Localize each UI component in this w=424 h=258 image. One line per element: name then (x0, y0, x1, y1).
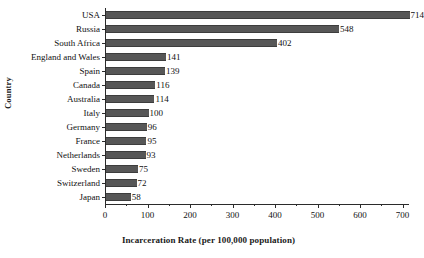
category-label: Switzerland (0, 177, 100, 189)
y-axis-tick (102, 43, 105, 44)
bar-row: Canada116 (105, 78, 409, 92)
x-axis-tick (233, 204, 234, 208)
bar-row: USA714 (105, 8, 409, 22)
bar-value-label: 93 (147, 149, 156, 161)
bar-row: Japan58 (105, 190, 409, 204)
bar (106, 11, 410, 19)
bar-row: Spain139 (105, 64, 409, 78)
category-label: Germany (0, 121, 100, 133)
y-axis-tick (102, 127, 105, 128)
bar (106, 39, 277, 47)
bar-row: Switzerland72 (105, 176, 409, 190)
category-label: France (0, 135, 100, 147)
x-axis-tick (403, 204, 404, 208)
bar-value-label: 714 (411, 9, 424, 21)
bar-value-label: 75 (139, 163, 148, 175)
category-label: Japan (0, 191, 100, 203)
bar-row: Germany96 (105, 120, 409, 134)
y-axis-tick (102, 183, 105, 184)
x-axis-tick (360, 204, 361, 208)
bar (106, 193, 131, 201)
y-axis-tick (102, 99, 105, 100)
category-label: Spain (0, 65, 100, 77)
x-axis-tick-label: 600 (353, 210, 367, 220)
category-label: Netherlands (0, 149, 100, 161)
category-label: Australia (0, 93, 100, 105)
bar-row: Italy100 (105, 106, 409, 120)
bar (106, 165, 138, 173)
bar-value-label: 72 (138, 177, 147, 189)
bar (106, 137, 146, 145)
bar-value-label: 116 (156, 79, 169, 91)
x-axis-tick-label: 500 (311, 210, 325, 220)
y-axis-tick (102, 113, 105, 114)
bar (106, 151, 146, 159)
category-label: Sweden (0, 163, 100, 175)
bar-row: South Africa402 (105, 36, 409, 50)
x-axis-minor-tick (169, 204, 170, 206)
x-axis-minor-tick (381, 204, 382, 206)
x-axis-tick-label: 0 (103, 210, 108, 220)
bar-value-label: 95 (147, 135, 156, 147)
bar (106, 81, 155, 89)
bar-value-label: 548 (340, 23, 354, 35)
x-axis-minor-tick (254, 204, 255, 206)
x-axis-title: Incarceration Rate (per 100,000 populati… (0, 235, 417, 245)
y-axis-tick (102, 155, 105, 156)
x-axis-tick-label: 100 (141, 210, 155, 220)
bar (106, 95, 154, 103)
x-axis-tick (190, 204, 191, 208)
x-axis-tick-label: 300 (226, 210, 240, 220)
bar-row: Netherlands93 (105, 148, 409, 162)
bar-value-label: 96 (148, 121, 157, 133)
x-axis-minor-tick (126, 204, 127, 206)
category-label: England and Wales (0, 51, 100, 63)
category-label: Russia (0, 23, 100, 35)
bar-value-label: 139 (166, 65, 180, 77)
x-axis-minor-tick (339, 204, 340, 206)
bar-row: Australia114 (105, 92, 409, 106)
bar-value-label: 58 (132, 191, 141, 203)
bar (106, 67, 165, 75)
y-axis-tick (102, 141, 105, 142)
x-axis-tick-label: 200 (183, 210, 197, 220)
x-axis-tick (275, 204, 276, 208)
bar-value-label: 402 (278, 37, 292, 49)
x-axis-tick-label: 400 (268, 210, 282, 220)
x-axis-minor-tick (296, 204, 297, 206)
x-axis-line (105, 204, 409, 205)
bar (106, 109, 149, 117)
category-label: South Africa (0, 37, 100, 49)
bar (106, 123, 147, 131)
bar-value-label: 114 (155, 93, 168, 105)
y-axis-tick (102, 197, 105, 198)
y-axis-tick (102, 169, 105, 170)
y-axis-tick (102, 85, 105, 86)
x-axis-tick (148, 204, 149, 208)
bar-row: Russia548 (105, 22, 409, 36)
bar (106, 25, 339, 33)
y-axis-tick (102, 29, 105, 30)
x-axis-tick-label: 700 (396, 210, 410, 220)
x-axis-tick (105, 204, 106, 208)
y-axis-tick (102, 57, 105, 58)
bar-row: Sweden75 (105, 162, 409, 176)
category-label: Canada (0, 79, 100, 91)
category-label: Italy (0, 107, 100, 119)
category-label: USA (0, 9, 100, 21)
bar (106, 179, 137, 187)
bar-value-label: 100 (150, 107, 164, 119)
x-axis-tick (318, 204, 319, 208)
plot-area: USA714Russia548South Africa402England an… (105, 8, 409, 204)
bar-row: France95 (105, 134, 409, 148)
x-axis-minor-tick (211, 204, 212, 206)
y-axis-tick (102, 71, 105, 72)
bar-row: England and Wales141 (105, 50, 409, 64)
bar-value-label: 141 (167, 51, 181, 63)
bar (106, 53, 166, 61)
y-axis-tick (102, 15, 105, 16)
